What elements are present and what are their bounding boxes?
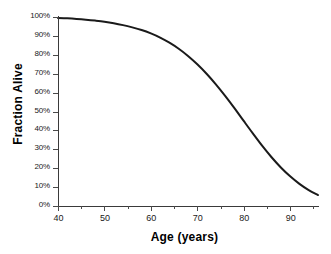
x-axis-line: [58, 206, 319, 207]
y-tick: 70%: [53, 74, 58, 75]
y-axis-line: [58, 16, 59, 207]
y-tick-mark: [53, 130, 58, 131]
y-tick: 90%: [53, 36, 58, 37]
x-tick-label: 70: [193, 213, 203, 223]
x-tick-label: 80: [239, 213, 249, 223]
y-tick: 60%: [53, 93, 58, 94]
x-minor-tick-mark: [313, 206, 314, 209]
x-tick-mark: [58, 206, 59, 211]
y-axis-title: Fraction Alive: [11, 34, 25, 174]
x-axis-title: Age (years): [0, 230, 331, 244]
plot-area: [58, 17, 318, 206]
x-tick-label: 40: [53, 213, 63, 223]
x-minor-tick-mark: [174, 206, 175, 209]
x-tick: 40: [58, 206, 59, 211]
y-tick-label: 50%: [35, 106, 50, 115]
y-tick-label: 0%: [39, 200, 50, 209]
x-minor-tick: [81, 206, 82, 211]
x-minor-tick-mark: [267, 206, 268, 209]
x-tick-label: 50: [100, 213, 110, 223]
y-tick-label: 90%: [35, 30, 50, 39]
x-tick-label: 60: [146, 213, 156, 223]
x-tick: 50: [104, 206, 105, 211]
y-tick-mark: [53, 112, 58, 113]
survival-curve-line: [58, 17, 318, 206]
y-tick-mark: [53, 74, 58, 75]
y-tick: 100%: [53, 17, 58, 18]
y-tick: 20%: [53, 168, 58, 169]
y-tick: 10%: [53, 187, 58, 188]
x-minor-tick: [128, 206, 129, 211]
y-tick: 50%: [53, 112, 58, 113]
y-tick: 40%: [53, 130, 58, 131]
x-axis-title-text: Age (years): [151, 230, 219, 244]
y-tick-mark: [53, 149, 58, 150]
y-tick-mark: [53, 168, 58, 169]
y-tick-label: 80%: [35, 49, 50, 58]
survival-curve-figure: 0%10%20%30%40%50%60%70%80%90%100% 405060…: [0, 0, 331, 254]
x-tick: 70: [197, 206, 198, 211]
x-tick-mark: [197, 206, 198, 211]
x-minor-tick-mark: [81, 206, 82, 209]
x-tick: 60: [151, 206, 152, 211]
x-minor-tick: [267, 206, 268, 211]
y-tick-mark: [53, 187, 58, 188]
x-tick: 80: [244, 206, 245, 211]
x-tick: 90: [290, 206, 291, 211]
y-tick-label: 20%: [35, 162, 50, 171]
y-tick-label: 60%: [35, 87, 50, 96]
y-tick-label: 100%: [30, 11, 50, 20]
y-tick-label: 40%: [35, 124, 50, 133]
y-tick-label: 30%: [35, 143, 50, 152]
x-tick-mark: [104, 206, 105, 211]
y-tick-mark: [53, 93, 58, 94]
x-minor-tick-mark: [128, 206, 129, 209]
x-tick-mark: [244, 206, 245, 211]
x-tick-label: 90: [286, 213, 296, 223]
y-tick: 30%: [53, 149, 58, 150]
x-tick-mark: [290, 206, 291, 211]
x-minor-tick: [313, 206, 314, 211]
x-tick-mark: [151, 206, 152, 211]
y-tick: 80%: [53, 55, 58, 56]
y-tick-mark: [53, 36, 58, 37]
y-tick-label: 70%: [35, 68, 50, 77]
x-minor-tick-mark: [221, 206, 222, 209]
x-minor-tick: [174, 206, 175, 211]
x-minor-tick: [221, 206, 222, 211]
y-tick-label: 10%: [35, 181, 50, 190]
y-tick-mark: [53, 55, 58, 56]
y-tick-mark: [53, 17, 58, 18]
